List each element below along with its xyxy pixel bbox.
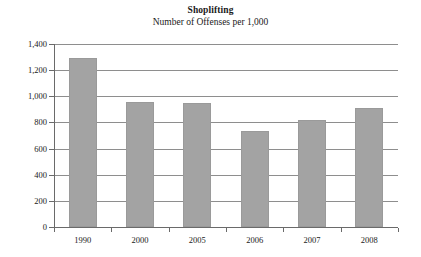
y-axis-tick-label: 200 — [1, 197, 47, 206]
x-axis-tick-label: 2007 — [283, 236, 340, 245]
bar-2000 — [126, 102, 154, 227]
x-axis-tick-label: 2005 — [169, 236, 226, 245]
page-title: Shoplifting — [0, 4, 421, 16]
bar-2005 — [183, 103, 211, 227]
y-axis-tick — [49, 149, 54, 150]
x-axis-tick — [169, 228, 170, 232]
bars-layer — [54, 44, 398, 227]
y-axis-tick-label: 1,400 — [1, 40, 47, 49]
y-axis-tick-label: 1,000 — [1, 92, 47, 101]
y-axis-tick — [49, 70, 54, 71]
x-axis-tick — [398, 228, 399, 232]
x-axis-tick-label: 2006 — [226, 236, 283, 245]
chart-title-block: Shoplifting Number of Offenses per 1,000 — [0, 4, 421, 29]
y-axis-tick — [49, 175, 54, 176]
x-axis-tick-label: 2008 — [341, 236, 398, 245]
x-axis-tick — [341, 228, 342, 232]
y-axis-tick-label: 1,200 — [1, 66, 47, 75]
y-axis-tick — [49, 122, 54, 123]
x-axis-tick — [283, 228, 284, 232]
x-axis-tick — [111, 228, 112, 232]
y-axis-tick-label: 600 — [1, 145, 47, 154]
bar-1990 — [69, 58, 97, 227]
chart-figure: Shoplifting Number of Offenses per 1,000… — [0, 0, 421, 257]
x-axis-tick-label: 1990 — [54, 236, 111, 245]
bar-2007 — [298, 120, 326, 227]
x-axis-tick — [54, 228, 55, 232]
x-axis-tick-label: 2000 — [111, 236, 168, 245]
y-axis-labels: 02004006008001,0001,2001,400 — [0, 0, 47, 257]
y-axis-tick — [49, 44, 54, 45]
y-axis-tick — [49, 201, 54, 202]
y-axis-tick-label: 800 — [1, 118, 47, 127]
y-axis-tick — [49, 96, 54, 97]
bar-2008 — [355, 108, 383, 227]
y-axis-tick-label: 0 — [1, 223, 47, 232]
bar-2006 — [241, 131, 269, 227]
y-axis-tick-label: 400 — [1, 171, 47, 180]
x-axis-tick — [226, 228, 227, 232]
chart-subtitle: Number of Offenses per 1,000 — [0, 16, 421, 29]
